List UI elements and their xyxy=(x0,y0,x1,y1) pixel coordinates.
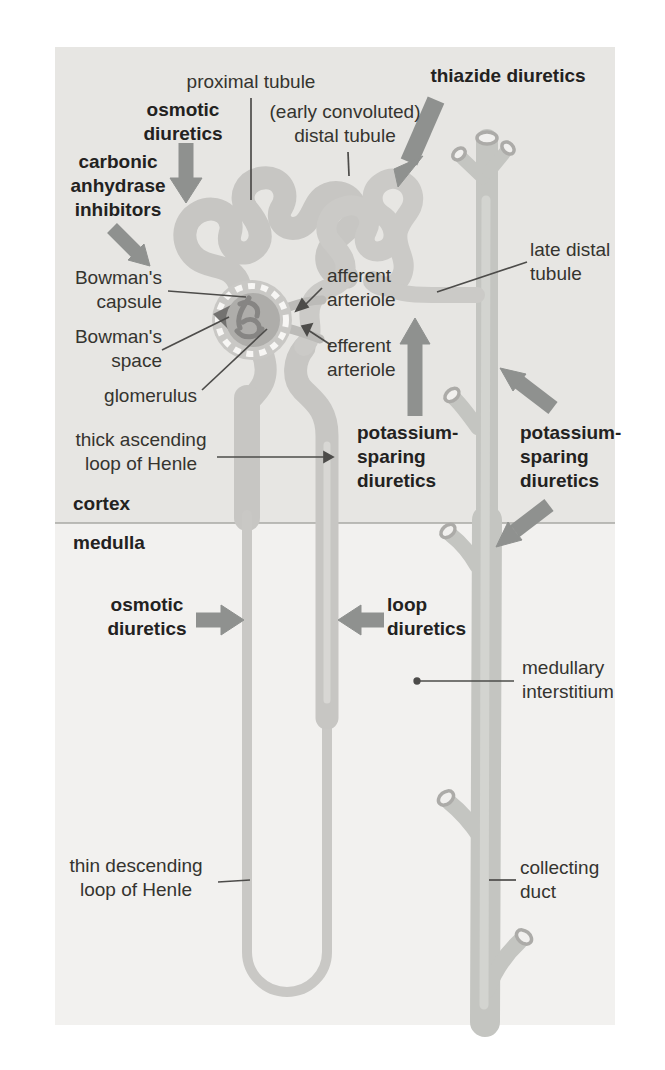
medullary-interstitium-dot xyxy=(414,678,420,684)
collecting-duct-highlight xyxy=(484,200,486,1005)
thiazide-diuretics-label: thiazide diuretics xyxy=(430,64,585,88)
cortex-label: cortex xyxy=(73,492,130,516)
bowmans-capsule-label: Bowman's capsule xyxy=(75,266,162,314)
carbonic-anhydrase-label: carbonic anhydrase inhibitors xyxy=(70,150,165,222)
thick-ascending-label: thick ascending loop of Henle xyxy=(76,428,207,476)
potassium-sparing-right-label: potassium- sparing diuretics xyxy=(520,421,621,493)
early-distal-pointer xyxy=(348,152,349,176)
afferent-arteriole-label: afferent arteriole xyxy=(327,264,396,312)
medullary-interstitium-label: medullary interstitium xyxy=(522,656,614,704)
efferent-arteriole-label: efferent arteriole xyxy=(327,334,396,382)
nephron-diuretics-figure: proximal tubule (early convoluted) dista… xyxy=(0,0,665,1070)
medulla-label: medulla xyxy=(73,531,145,555)
proximal-tubule-label: proximal tubule xyxy=(187,70,316,94)
osmotic-diuretics-cortex-label: osmotic diuretics xyxy=(143,98,222,146)
thin-descending-label: thin descending loop of Henle xyxy=(69,854,202,902)
glomerulus-label: glomerulus xyxy=(104,384,197,408)
collecting-duct-label: collecting duct xyxy=(520,856,599,904)
bowmans-space-label: Bowman's space xyxy=(75,325,162,373)
early-distal-tubule-label: (early convoluted) distal tubule xyxy=(269,100,420,148)
late-distal-tubule-label: late distal tubule xyxy=(530,238,610,286)
osmotic-diuretics-medulla-label: osmotic diuretics xyxy=(107,593,186,641)
loop-diuretics-label: loop diuretics xyxy=(387,593,466,641)
potassium-sparing-left-label: potassium- sparing diuretics xyxy=(357,421,458,493)
